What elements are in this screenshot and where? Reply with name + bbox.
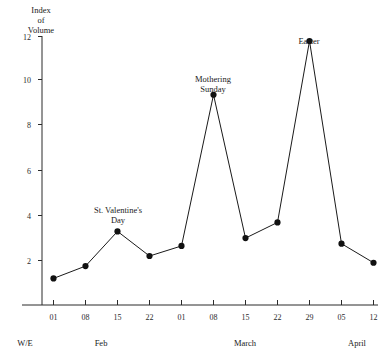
- y-axis-ticks: [38, 37, 42, 261]
- month-label-feb: Feb: [95, 338, 108, 348]
- data-point: [370, 260, 376, 266]
- annotation-mothering-line-2: Sunday: [200, 84, 226, 94]
- x-tick-label-1: 08: [82, 313, 90, 322]
- data-point: [114, 228, 120, 234]
- month-label-april: April: [348, 338, 367, 348]
- y-tick-label-2: 2: [27, 257, 31, 266]
- x-tick-label-7: 22: [274, 313, 282, 322]
- y-axis-title-line-1: Index: [31, 5, 51, 15]
- chart-container: Index of Volume 2 4 6 8 10 12: [0, 0, 386, 359]
- annotation-mothering-line-1: Mothering: [195, 74, 232, 84]
- x-tick-label-9: 05: [338, 313, 346, 322]
- data-point: [50, 275, 56, 281]
- x-tick-label-3: 22: [146, 313, 154, 322]
- y-tick-label-12: 12: [23, 33, 31, 42]
- x-tick-label-10: 12: [370, 313, 378, 322]
- x-tick-label-4: 01: [178, 313, 186, 322]
- x-tick-label-6: 15: [242, 313, 250, 322]
- line-chart: Index of Volume 2 4 6 8 10 12: [0, 0, 386, 359]
- x-axis-ticks: [54, 300, 374, 305]
- data-point: [242, 235, 248, 241]
- annotation-valentine-line-1: St. Valentine's: [94, 205, 142, 215]
- y-axis-title-line-3: Volume: [28, 25, 55, 35]
- data-point: [146, 253, 152, 259]
- y-axis-title-line-2: of: [37, 15, 44, 25]
- data-point: [338, 241, 344, 247]
- data-point: [178, 243, 184, 249]
- data-point: [82, 263, 88, 269]
- x-tick-label-5: 08: [210, 313, 218, 322]
- y-tick-label-6: 6: [27, 167, 31, 176]
- y-tick-label-10: 10: [23, 76, 31, 85]
- x-tick-label-2: 15: [114, 313, 122, 322]
- y-tick-label-8: 8: [27, 121, 31, 130]
- y-tick-label-4: 4: [27, 212, 31, 221]
- month-label-march: March: [234, 338, 257, 348]
- x-tick-label-0: 01: [50, 313, 58, 322]
- week-ending-label: W/E: [17, 338, 33, 348]
- x-tick-label-8: 29: [306, 313, 314, 322]
- data-point: [274, 219, 280, 225]
- annotation-easter-line-1: Easter: [298, 36, 319, 46]
- annotation-valentine-line-2: Day: [111, 215, 126, 225]
